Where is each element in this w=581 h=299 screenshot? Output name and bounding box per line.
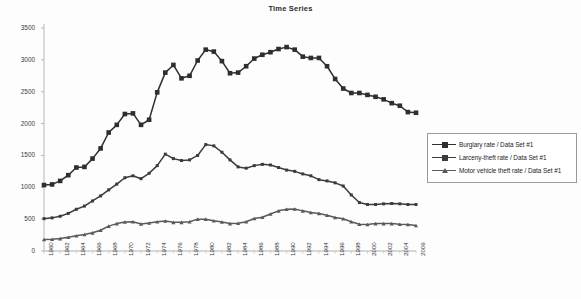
- square-marker-icon: [212, 49, 217, 54]
- legend-item[interactable]: Burglary rate / Data Set #1: [431, 138, 573, 151]
- square-marker-icon: [236, 70, 241, 75]
- square-marker-icon: [358, 201, 361, 204]
- square-marker-icon: [42, 183, 47, 188]
- square-marker-icon: [260, 52, 265, 57]
- x-axis-tick-label: 1986: [257, 242, 264, 256]
- x-axis-tick-label: 2006: [419, 242, 426, 256]
- square-marker-icon: [414, 110, 419, 115]
- chart-figure: Time Series Burglary rate / Data Set #1L…: [0, 0, 581, 299]
- square-marker-icon: [91, 199, 94, 202]
- square-marker-icon: [164, 153, 167, 156]
- square-marker-icon: [123, 176, 126, 179]
- square-marker-icon: [59, 215, 62, 218]
- x-axis-tick-label: 2000: [370, 242, 377, 256]
- x-axis-tick-label: 2002: [386, 242, 393, 256]
- square-marker-icon: [58, 179, 63, 184]
- square-marker-icon: [342, 185, 345, 188]
- square-marker-icon: [179, 76, 184, 81]
- square-marker-icon: [123, 112, 128, 117]
- square-marker-icon: [269, 163, 272, 166]
- legend-item-label: Motor vehicle theft rate / Data Set #1: [459, 167, 561, 174]
- legend-swatch: [431, 166, 457, 176]
- x-axis-tick-label: 1974: [160, 242, 167, 256]
- x-axis-tick-label: 1960: [47, 242, 54, 256]
- square-marker-icon: [245, 167, 248, 170]
- square-marker-icon: [398, 202, 401, 205]
- series-1: [43, 143, 418, 220]
- y-axis-tick-label: 500: [5, 215, 35, 222]
- square-marker-icon: [398, 103, 403, 108]
- square-marker-icon: [292, 47, 297, 52]
- square-marker-icon: [268, 50, 273, 55]
- x-axis-tick-label: 1992: [305, 242, 312, 256]
- square-marker-icon: [390, 202, 393, 205]
- square-marker-icon: [365, 93, 370, 98]
- square-marker-icon: [66, 173, 71, 178]
- square-marker-icon: [442, 142, 448, 148]
- legend-swatch: [431, 153, 457, 163]
- square-marker-icon: [196, 154, 199, 157]
- x-axis-tick-label: 1984: [241, 242, 248, 256]
- legend-item[interactable]: Motor vehicle theft rate / Data Set #1: [431, 164, 573, 177]
- square-marker-icon: [357, 91, 362, 96]
- square-marker-icon: [156, 164, 159, 167]
- x-axis-tick-label: 1972: [144, 242, 151, 256]
- square-marker-icon: [107, 188, 110, 191]
- square-marker-icon: [67, 212, 70, 215]
- square-marker-icon: [139, 123, 144, 128]
- square-marker-icon: [415, 203, 418, 206]
- square-marker-icon: [106, 130, 111, 135]
- y-axis-tick-label: 1000: [5, 183, 35, 190]
- legend-item-label: Larceny-theft rate / Data Set #1: [459, 154, 547, 161]
- square-marker-icon: [442, 155, 448, 161]
- x-axis-tick-label: 1988: [273, 242, 280, 256]
- square-marker-icon: [334, 181, 337, 184]
- square-marker-icon: [82, 165, 87, 170]
- series-line: [44, 47, 416, 185]
- x-axis-tick-label: 1980: [208, 242, 215, 256]
- x-axis-tick-label: 1966: [95, 242, 102, 256]
- square-marker-icon: [98, 146, 103, 151]
- legend-item[interactable]: Larceny-theft rate / Data Set #1: [431, 151, 573, 164]
- square-marker-icon: [350, 193, 353, 196]
- square-marker-icon: [74, 165, 79, 170]
- x-axis-tick-label: 1976: [176, 242, 183, 256]
- legend-item-label: Burglary rate / Data Set #1: [459, 141, 533, 148]
- x-axis-tick-label: 1990: [289, 242, 296, 256]
- square-marker-icon: [43, 217, 46, 220]
- square-marker-icon: [140, 177, 143, 180]
- square-marker-icon: [309, 174, 312, 177]
- square-marker-icon: [301, 172, 304, 175]
- square-marker-icon: [172, 157, 175, 160]
- square-marker-icon: [131, 111, 136, 116]
- square-marker-icon: [50, 182, 55, 187]
- series-2: [42, 207, 418, 241]
- square-marker-icon: [148, 172, 151, 175]
- square-marker-icon: [114, 123, 119, 128]
- square-marker-icon: [204, 143, 207, 146]
- square-marker-icon: [75, 208, 78, 211]
- square-marker-icon: [188, 158, 191, 161]
- series-line: [44, 145, 416, 219]
- square-marker-icon: [253, 164, 256, 167]
- x-axis-tick-label: 1978: [192, 242, 199, 256]
- square-marker-icon: [317, 178, 320, 181]
- square-marker-icon: [374, 203, 377, 206]
- square-marker-icon: [90, 156, 95, 161]
- square-marker-icon: [131, 174, 134, 177]
- square-marker-icon: [195, 58, 200, 63]
- square-marker-icon: [147, 117, 152, 122]
- x-axis-tick-label: 1998: [354, 242, 361, 256]
- square-marker-icon: [237, 165, 240, 168]
- square-marker-icon: [99, 194, 102, 197]
- square-marker-icon: [341, 86, 346, 91]
- square-marker-icon: [229, 158, 232, 161]
- square-marker-icon: [284, 45, 289, 50]
- square-marker-icon: [382, 202, 385, 205]
- x-axis-tick-label: 1962: [63, 242, 70, 256]
- square-marker-icon: [203, 47, 208, 52]
- x-axis-tick-label: 1982: [225, 242, 232, 256]
- square-marker-icon: [220, 59, 225, 64]
- y-axis-tick-label: 2500: [5, 88, 35, 95]
- square-marker-icon: [276, 47, 281, 52]
